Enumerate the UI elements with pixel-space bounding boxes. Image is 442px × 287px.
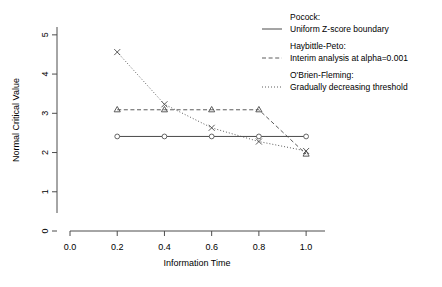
normal-critical-value-chart: 012345 Normal Critical Value 0.00.20.40.…	[0, 0, 442, 287]
legend-entry: O'Brien-Fleming:Gradually decreasing thr…	[262, 70, 408, 92]
series-pocock	[115, 134, 309, 139]
x-axis: 0.00.20.40.60.81.0 Information Time	[64, 231, 325, 268]
x-tick-label: 0.8	[253, 242, 266, 252]
legend-entry-description: Gradually decreasing threshold	[290, 82, 408, 92]
data-point	[162, 134, 167, 139]
data-point	[209, 134, 214, 139]
x-tick-label: 1.0	[300, 242, 313, 252]
y-tick-label: 5	[40, 32, 50, 37]
data-point	[161, 106, 167, 111]
y-axis: 012345 Normal Critical Value	[11, 27, 57, 234]
chart-legend: Pocock:Uniform Z-score boundaryHaybittle…	[262, 12, 408, 92]
legend-entry-description: Interim analysis at alpha=0.001	[290, 53, 408, 63]
x-tick-group: 0.00.20.40.60.81.0	[64, 231, 313, 252]
legend-entry-title: Haybittle-Peto:	[290, 41, 346, 51]
legend-entry-title: O'Brien-Fleming:	[290, 70, 354, 80]
series-line	[117, 110, 306, 154]
legend-entry-title: Pocock:	[290, 12, 320, 22]
x-tick-label: 0.6	[205, 242, 218, 252]
x-tick-label: 0.0	[64, 242, 77, 252]
legend-entry: Pocock:Uniform Z-score boundary	[262, 12, 389, 34]
y-tick-label: 2	[40, 150, 50, 155]
plot-area	[114, 49, 309, 156]
series-haybittle-peto	[114, 106, 309, 156]
x-axis-title: Information Time	[163, 258, 230, 268]
x-tick-label: 0.4	[158, 242, 171, 252]
y-tick-label: 4	[40, 72, 50, 77]
data-point	[115, 134, 120, 139]
y-axis-title: Normal Critical Value	[11, 78, 21, 162]
data-point	[256, 134, 261, 139]
chart-root: 012345 Normal Critical Value 0.00.20.40.…	[0, 0, 442, 287]
y-tick-label: 0	[40, 228, 50, 233]
x-tick-label: 0.2	[111, 242, 124, 252]
legend-entry-description: Uniform Z-score boundary	[290, 24, 389, 34]
y-tick-group: 012345	[40, 32, 57, 233]
data-point	[114, 106, 120, 111]
legend-entry: Haybittle-Peto:Interim analysis at alpha…	[262, 41, 408, 63]
data-point	[256, 106, 262, 111]
y-tick-label: 3	[40, 111, 50, 116]
y-tick-label: 1	[40, 189, 50, 194]
data-point	[304, 134, 309, 139]
data-point	[209, 106, 215, 111]
